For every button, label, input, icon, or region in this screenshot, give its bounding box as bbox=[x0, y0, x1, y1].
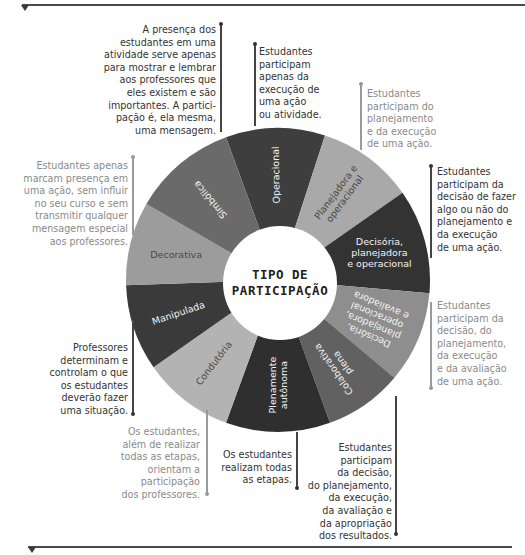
leader-dot-plenamente-autonoma bbox=[295, 486, 299, 490]
note-decisoria-planejadora-operacional-avaliadora: Estudantes participam da decisão, do pla… bbox=[437, 300, 525, 388]
leader-dot-manipulada bbox=[131, 412, 135, 416]
leader-decisoria-planejadora-operacional bbox=[430, 166, 432, 258]
note-plenamente-autonoma: Os estudantes realizam todas as etapas. bbox=[210, 449, 292, 487]
segment-label-decisoria-planejadora-operacional: Decisória,planejadorae operacional bbox=[347, 236, 411, 269]
leader-colaborativa-plena bbox=[395, 396, 397, 534]
leader-dot-condutoria bbox=[205, 492, 209, 496]
note-decisoria-planejadora-operacional: Estudantes participam da decisão de faze… bbox=[437, 166, 525, 254]
note-simbolica: A presença dos estudantes em uma ativida… bbox=[90, 24, 216, 137]
leader-decisoria-planejadora-operacional-avaliadora bbox=[430, 302, 432, 388]
note-manipulada: Professores determinam e controlam o que… bbox=[30, 342, 128, 418]
leader-dot-decisoria-planejadora-operacional bbox=[429, 164, 433, 168]
segment-label-decorativa: Decorativa bbox=[150, 249, 202, 260]
leader-dot-operacional bbox=[253, 42, 257, 46]
segment-label-operacional: Operacional bbox=[270, 146, 282, 203]
leader-dot-simbolica bbox=[219, 22, 223, 26]
leader-dot-colaborativa-plena bbox=[394, 532, 398, 536]
note-planejadora-operacional: Estudantes participam do planejamento e … bbox=[367, 88, 467, 151]
leader-manipulada bbox=[132, 320, 134, 414]
leader-simbolica bbox=[220, 24, 222, 132]
center-title-line1: TIPO DE bbox=[252, 267, 308, 282]
leader-decorativa bbox=[132, 157, 134, 235]
note-operacional: Estudantes participam apenas da execução… bbox=[259, 46, 359, 122]
note-colaborativa-plena: Estudantes participam da decisão, do pla… bbox=[300, 442, 392, 543]
note-condutoria: Os estudantes, além de realizar todas as… bbox=[100, 426, 200, 502]
center-title-line2: PARTICIPAÇÃO bbox=[232, 283, 328, 298]
leader-planejadora-operacional bbox=[360, 84, 362, 150]
leader-dot-decorativa bbox=[131, 155, 135, 159]
leader-plenamente-autonoma bbox=[296, 432, 298, 488]
leader-operacional bbox=[254, 44, 256, 126]
leader-dot-decisoria-planejadora-operacional-avaliadora bbox=[429, 386, 433, 390]
note-decorativa: Estudantes apenas marcam presença em uma… bbox=[6, 160, 128, 248]
segment-label-plenamente-autonoma: Plenamenteautônoma bbox=[267, 356, 289, 413]
leader-dot-planejadora-operacional bbox=[359, 82, 363, 86]
leader-condutoria bbox=[206, 410, 208, 494]
